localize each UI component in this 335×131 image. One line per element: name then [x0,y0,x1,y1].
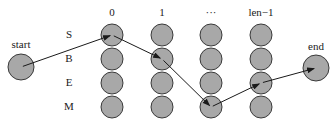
row-label-b: B [65,52,72,64]
row-label-e: E [66,76,73,88]
state-node-e-col-3 [250,72,272,94]
state-node-b-col-0 [101,48,123,70]
viterbi-path [23,36,314,106]
column-label-1: 1 [159,6,165,18]
viterbi-lattice-diagram: start end S B E M 0 1 ··· len−1 [0,0,335,131]
column-labels: 0 1 ··· len−1 [109,6,273,18]
state-node-s-col-3 [250,24,272,46]
state-node-s-col-1 [151,24,173,46]
column-label-ellipsis: ··· [206,6,217,18]
row-label-s: S [66,28,72,40]
start-circle [8,54,34,80]
column-label-0: 0 [109,6,115,18]
state-node-m-col-1 [151,96,173,118]
state-node-b-col-3 [250,48,272,70]
column-label-len-minus-1: len−1 [248,6,273,18]
end-label: end [308,40,324,52]
state-node-e-col-2 [200,72,222,94]
state-node-s-col-2 [200,24,222,46]
row-label-m: M [64,100,74,112]
start-label: start [12,38,31,50]
start-node: start [8,38,34,80]
state-node-m-col-3 [250,96,272,118]
state-node-m-col-0 [101,96,123,118]
state-node-e-col-1 [151,72,173,94]
state-node-s-col-0 [101,24,123,46]
state-node-b-col-2 [200,48,222,70]
lattice-nodes [101,24,272,118]
state-node-e-col-0 [101,72,123,94]
end-node: end [303,40,329,81]
row-labels: S B E M [64,28,74,112]
end-circle [303,55,329,81]
